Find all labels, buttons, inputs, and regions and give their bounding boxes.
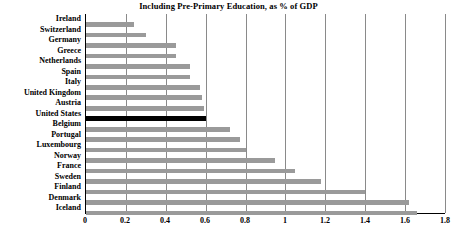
category-label-iceland: Iceland [0,203,81,214]
category-label-france: France [0,161,81,172]
x-tick-label-0.6: 0.6 [200,216,210,225]
category-label-greece: Greece [0,46,81,57]
category-label-netherlands: Netherlands [0,56,81,67]
category-axis-labels: IrelandSwitzerlandGermanyGreeceNetherlan… [0,14,83,214]
category-label-germany: Germany [0,35,81,46]
category-label-denmark: Denmark [0,193,81,204]
category-label-united-kingdom: United Kingdom [0,88,81,99]
category-label-portugal: Portugal [0,130,81,141]
bar-series [86,14,445,213]
gridline-1.8 [445,14,446,213]
x-tick-label-1: 1 [283,216,287,225]
category-label-spain: Spain [0,67,81,78]
category-label-sweden: Sweden [0,172,81,183]
value-axis-labels: 00.20.40.60.811.21.41.61.8 [85,216,445,232]
x-tick-label-1.4: 1.4 [360,216,370,225]
category-label-italy: Italy [0,77,81,88]
category-label-switzerland: Switzerland [0,25,81,36]
chart-title: Including Pre-Primary Education, as % of… [0,1,457,11]
category-label-belgium: Belgium [0,119,81,130]
category-label-united-states: United States [0,109,81,120]
x-tick-label-1.6: 1.6 [400,216,410,225]
category-label-austria: Austria [0,98,81,109]
plot-area [85,14,445,214]
x-tick-label-0: 0 [83,216,87,225]
category-label-ireland: Ireland [0,14,81,25]
x-tick-label-0.2: 0.2 [120,216,130,225]
category-label-luxembourg: Luxembourg [0,140,81,151]
x-tick-label-0.4: 0.4 [160,216,170,225]
x-tick-label-1.8: 1.8 [440,216,450,225]
category-label-finland: Finland [0,182,81,193]
category-label-norway: Norway [0,151,81,162]
bar-chart: Including Pre-Primary Education, as % of… [0,0,457,245]
x-tick-label-0.8: 0.8 [240,216,250,225]
x-tick-label-1.2: 1.2 [320,216,330,225]
bar-iceland [86,211,417,216]
